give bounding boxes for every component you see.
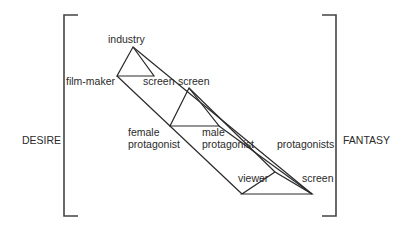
node-screen-1: screen [143,75,175,87]
node-male-protagonist-line1: male [202,126,225,138]
right-bracket [322,15,336,216]
node-screen-3: screen [302,172,334,184]
node-female-protagonist-line1: female [128,126,160,138]
node-industry: industry [108,33,145,45]
node-male-protagonist-line2: protagonist [202,138,254,150]
diagram-canvas [0,0,412,233]
node-viewer: viewer [238,172,268,184]
node-screen-2: screen [178,75,210,87]
left-bracket [64,15,78,216]
label-fantasy: FANTASY [343,134,390,146]
node-female-protagonist-line2: protagonist [128,138,180,150]
triangle-industry [117,47,154,76]
node-film-maker: film-maker [66,75,115,87]
node-protagonists: protagonists [277,138,334,150]
label-desire: DESIRE [22,134,61,146]
